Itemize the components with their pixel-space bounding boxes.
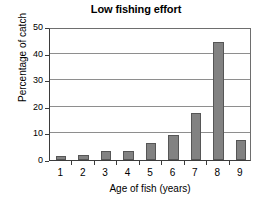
y-tick-label: 30 [17,76,43,85]
y-tick-label: 10 [17,129,43,138]
x-tick-label: 5 [139,167,161,178]
bar [168,135,179,160]
bar-chart: Low fishing effort Percentage of catch 0… [0,0,272,204]
x-tick-label: 8 [206,167,228,178]
y-tick-label: 20 [17,103,43,112]
x-tick-mark [229,161,230,165]
y-tick-mark [45,161,49,162]
bar-series [50,29,250,160]
chart-title: Low fishing effort [0,3,272,15]
y-tick-label: 0 [17,156,43,165]
x-tick-label: 3 [94,167,116,178]
x-tick-label: 2 [72,167,94,178]
y-tick-label: 40 [17,50,43,59]
bar [191,113,202,160]
bar [78,155,89,160]
bar [123,151,134,160]
x-tick-mark [206,161,207,165]
x-tick-mark [71,161,72,165]
x-tick-mark [116,161,117,165]
x-tick-label: 7 [184,167,206,178]
x-tick-mark [139,161,140,165]
x-tick-mark [184,161,185,165]
y-tick-label: 50 [17,23,43,32]
x-tick-mark [161,161,162,165]
bar [213,42,224,160]
plot-area [49,28,251,161]
bar [236,140,247,160]
x-tick-label: 1 [49,167,71,178]
bar [101,151,112,160]
x-tick-label: 4 [117,167,139,178]
x-tick-label: 6 [161,167,183,178]
x-axis-title: Age of fish (years) [49,183,251,194]
x-tick-mark [94,161,95,165]
bar [56,156,67,160]
bar [146,143,157,160]
x-tick-label: 9 [229,167,251,178]
